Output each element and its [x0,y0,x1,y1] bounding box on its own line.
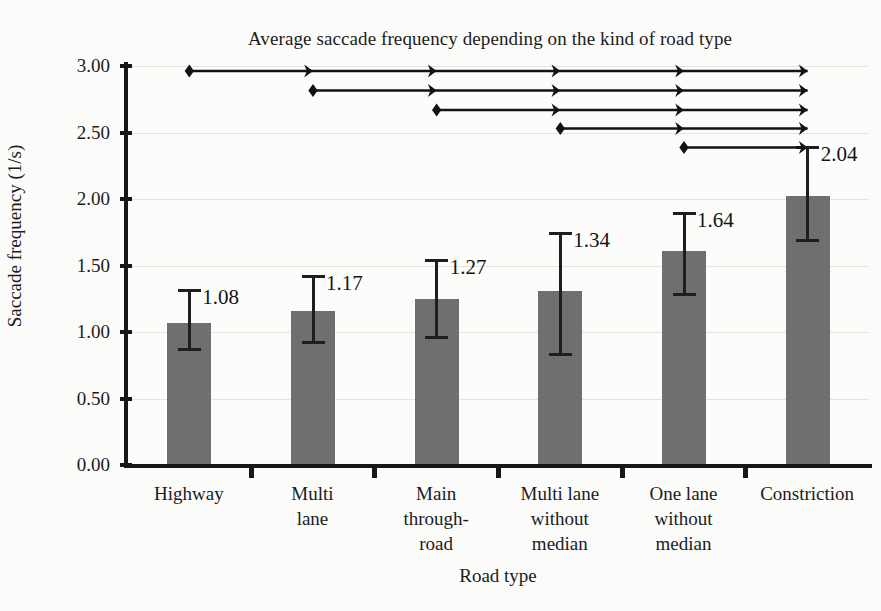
x-axis-tick-label-line: without [490,506,630,531]
y-axis-tick [120,64,132,68]
error-bar-line [806,146,809,242]
error-bar-cap-upper [796,146,819,149]
bar-value-label: 1.08 [202,285,239,310]
x-axis-tick-label-line: without [614,506,754,531]
error-bar-cap-lower [673,293,696,296]
x-axis-title: Road type [127,565,869,587]
x-axis-tick-label-line: road [366,531,506,556]
x-axis-tick-label-line: through- [366,506,506,531]
bar-value-label: 2.04 [821,142,858,167]
x-axis-tick-label: Constriction [737,481,877,506]
chart-title: Average saccade frequency depending on t… [120,28,860,50]
error-bar-line [683,212,686,296]
gridline [127,199,869,200]
gridline [127,66,869,67]
error-bar-cap-lower [425,336,448,339]
bar-value-label: 1.64 [697,208,734,233]
error-bar-cap-upper [302,275,325,278]
y-axis-tick [120,131,132,135]
error-bar-cap-upper [178,289,201,292]
error-bar-cap-upper [425,259,448,262]
chart-figure: Average saccade frequency depending on t… [0,0,881,611]
error-bar-cap-lower [549,353,572,356]
y-axis-tick-label: 1.00 [40,321,110,343]
x-axis-tick [496,467,501,478]
y-axis-tick [120,197,132,201]
x-axis-tick [743,467,748,478]
x-axis-tick-label: Multi lanewithoutmedian [490,481,630,556]
x-axis-tick-label-line: lane [243,506,383,531]
y-axis-title: Saccade frequency (1/s) [4,56,26,416]
x-axis-tick-label: One lanewithoutmedian [614,481,754,556]
error-bar-line [435,259,438,339]
x-axis-tick-label-line: median [490,531,630,556]
x-axis-tick-label-line: One lane [614,481,754,506]
error-bar-cap-upper [673,212,696,215]
y-axis-tick-label: 3.00 [40,55,110,77]
gridline [127,133,869,134]
plot-area: 1.081.171.271.341.642.04 [127,66,869,465]
error-bar-line [312,275,315,344]
x-axis-tick-label-line: median [614,531,754,556]
gridline [127,399,869,400]
x-axis-tick [372,467,377,478]
x-axis-tick-label-line: Multi lane [490,481,630,506]
error-bar-line [188,289,191,350]
error-bar-cap-lower [302,341,325,344]
gridline [127,266,869,267]
x-axis-tick-label: Mainthrough-road [366,481,506,556]
bar-value-label: 1.34 [573,228,610,253]
y-axis-tick-label: 1.50 [40,255,110,277]
x-axis-tick-label-line: Main [366,481,506,506]
y-axis-tick [120,397,132,401]
x-axis-tick [620,467,625,478]
y-axis-tick-labels: 0.000.501.001.502.002.503.00 [38,0,110,611]
x-axis-tick-label-line: Multi [243,481,383,506]
y-axis-tick-label: 0.50 [40,388,110,410]
error-bar-cap-lower [178,348,201,351]
error-bar-cap-lower [796,239,819,242]
x-axis-tick-label-line: Constriction [737,481,877,506]
x-axis-tick-label-line: Highway [119,481,259,506]
error-bar-cap-upper [549,232,572,235]
bar-value-label: 1.27 [450,255,487,280]
gridline [127,332,869,333]
y-axis-tick-label: 0.00 [40,454,110,476]
y-axis-tick [120,330,132,334]
x-axis-tick-label: Highway [119,481,259,506]
x-axis-tick-label: Multilane [243,481,383,531]
bar-value-label: 1.17 [326,271,363,296]
y-axis-tick [120,264,132,268]
error-bar-line [559,232,562,356]
y-axis-tick-label: 2.50 [40,122,110,144]
x-axis-tick [249,467,254,478]
y-axis-tick-label: 2.00 [40,188,110,210]
